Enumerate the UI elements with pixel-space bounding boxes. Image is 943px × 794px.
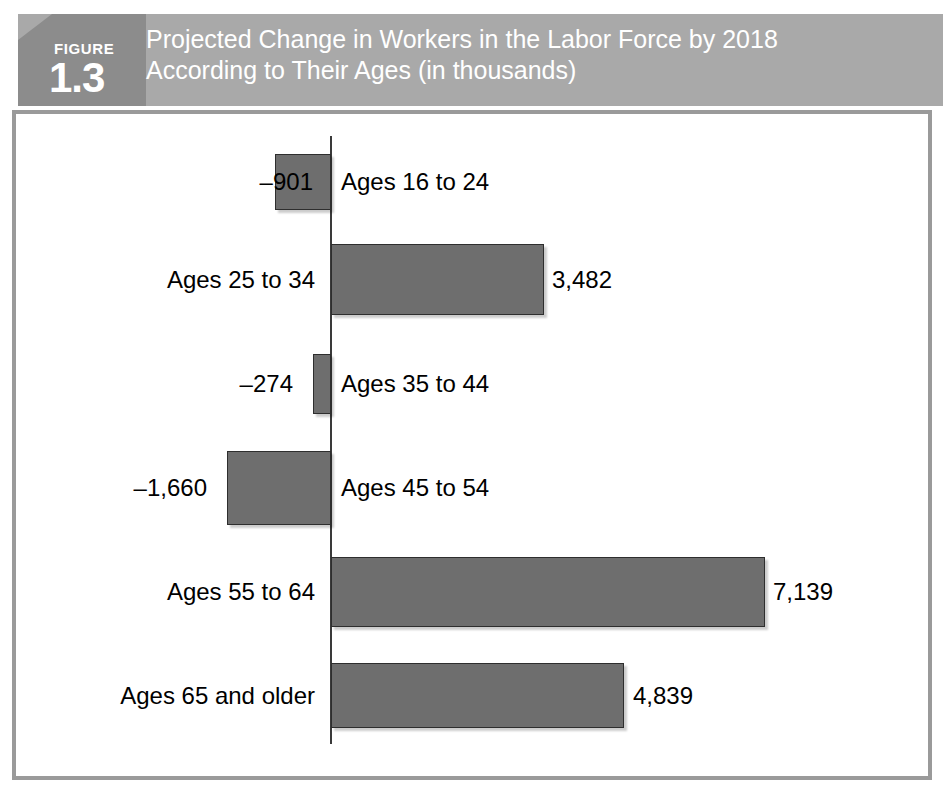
bar-row: Ages 25 to 34 3,482 xyxy=(16,244,928,315)
bar-category-label: Ages 16 to 24 xyxy=(341,170,489,194)
bar-positive xyxy=(331,663,624,728)
bar-row: Ages 55 to 64 7,139 xyxy=(16,557,928,627)
bar-category-label: Ages 25 to 34 xyxy=(15,268,329,292)
figure-title-line-2: According to Their Ages (in thousands) xyxy=(146,55,926,86)
bar-row: –901 Ages 16 to 24 xyxy=(16,154,928,210)
bar-category-label: Ages 35 to 44 xyxy=(341,372,489,396)
bar-category-label: Ages 55 to 64 xyxy=(15,580,329,604)
bar-value-label: –901 xyxy=(63,170,329,194)
bar-positive xyxy=(331,557,765,627)
bar-row: –274 Ages 35 to 44 xyxy=(16,354,928,414)
bar-category-label: Ages 45 to 54 xyxy=(341,476,489,500)
chart-frame: –901 Ages 16 to 24 Ages 25 to 34 3,482 –… xyxy=(12,110,932,780)
bar-row: Ages 65 and older 4,839 xyxy=(16,663,928,728)
figure-title: Projected Change in Workers in the Labor… xyxy=(146,24,926,86)
bar-chart-plot-area: –901 Ages 16 to 24 Ages 25 to 34 3,482 –… xyxy=(16,114,928,776)
bar-row: –1,660 Ages 45 to 54 xyxy=(16,451,928,525)
bar-value-label: 4,839 xyxy=(633,684,693,708)
bar-value-label: 3,482 xyxy=(552,268,612,292)
figure-number-badge: FIGURE 1.3 xyxy=(18,14,146,106)
bar-category-label: Ages 65 and older xyxy=(15,684,329,708)
zero-axis-line xyxy=(330,136,332,744)
bar-value-label: –1,660 xyxy=(0,476,329,500)
bar-positive xyxy=(331,244,544,315)
bar-value-label: 7,139 xyxy=(773,580,833,604)
bar-value-label: –274 xyxy=(43,372,329,396)
figure-number-label: 1.3 xyxy=(49,56,104,100)
figure-title-line-1: Projected Change in Workers in the Labor… xyxy=(146,24,926,55)
